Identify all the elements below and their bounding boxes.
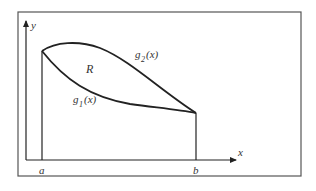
x-axis-label: x	[237, 146, 243, 158]
figure-frame	[18, 12, 301, 176]
lower-curve-g1	[42, 51, 196, 113]
svg-text:(x): (x)	[84, 93, 97, 106]
point-b-label: b	[193, 164, 199, 176]
region-between-curves-diagram: y x a b R g 2 (x) g 1 (x)	[0, 0, 316, 191]
svg-text:1: 1	[79, 100, 83, 109]
svg-text:(x): (x)	[146, 48, 159, 61]
point-a-label: a	[39, 164, 45, 176]
y-axis-label: y	[30, 19, 36, 31]
region-label: R	[85, 62, 94, 76]
svg-text:2: 2	[141, 55, 145, 64]
upper-curve-label: g 2 (x)	[135, 48, 159, 64]
lower-curve-label: g 1 (x)	[73, 93, 97, 109]
